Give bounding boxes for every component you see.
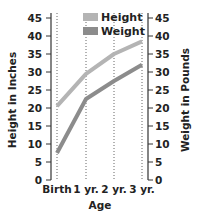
left-tick-label: 30	[27, 66, 42, 78]
right-tick-label: 40	[155, 30, 170, 42]
height-legend-swatch	[83, 13, 98, 21]
left-tick-label: 10	[27, 138, 42, 150]
left-tick-label: 15	[27, 120, 42, 132]
data-series	[57, 41, 142, 153]
height-weight-chart: 005510101515202025253030353540404545 Hei…	[0, 0, 197, 216]
right-tick-label: 5	[155, 156, 162, 168]
left-tick-label: 35	[27, 48, 42, 60]
x-axis-tick-labels: Birth1 yr.2 yr.3 yr.	[42, 183, 154, 195]
left-tick-label: 20	[27, 102, 42, 114]
right-tick-label: 0	[155, 174, 162, 186]
right-tick-label: 35	[155, 48, 170, 60]
x-tick-label: 3 yr.	[129, 183, 154, 195]
axes: 005510101515202025253030353540404545	[27, 12, 169, 186]
right-tick-label: 25	[155, 84, 170, 96]
height-legend-label: Height	[101, 11, 142, 24]
weight-line	[57, 65, 142, 153]
weight-legend-label: Weight	[101, 25, 145, 38]
x-tick-label: Birth	[42, 183, 71, 195]
right-tick-label: 45	[155, 12, 170, 24]
x-tick-label: 2 yr.	[101, 183, 126, 195]
right-tick-label: 20	[155, 102, 170, 114]
vertical-gridlines	[57, 13, 142, 180]
x-tick-label: 1 yr.	[73, 183, 98, 195]
right-tick-label: 30	[155, 66, 170, 78]
x-axis-title: Age	[89, 199, 112, 211]
right-tick-label: 15	[155, 120, 170, 132]
right-y-axis-title: Weight in Pounds	[179, 48, 191, 152]
legend: HeightWeight	[83, 11, 145, 38]
left-y-axis-title: Height in Inches	[6, 52, 18, 148]
left-tick-label: 25	[27, 84, 42, 96]
left-tick-label: 0	[35, 174, 42, 186]
left-tick-label: 40	[27, 30, 42, 42]
left-tick-label: 45	[27, 12, 42, 24]
weight-legend-swatch	[83, 27, 98, 35]
right-tick-label: 10	[155, 138, 170, 150]
left-tick-label: 5	[35, 156, 42, 168]
